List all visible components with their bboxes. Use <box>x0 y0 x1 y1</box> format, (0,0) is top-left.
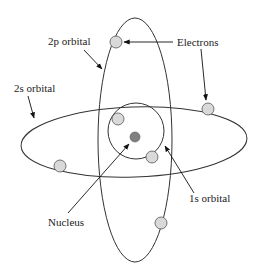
orbital-1s <box>108 103 164 159</box>
electron <box>146 151 158 163</box>
electron <box>110 36 122 48</box>
arrow-electrons-right <box>201 49 206 100</box>
arrow-2s <box>28 96 34 118</box>
electron <box>112 113 124 125</box>
atom-diagram <box>0 0 267 273</box>
electron <box>202 103 214 115</box>
label-electrons: Electrons <box>177 37 219 48</box>
electron <box>54 160 66 172</box>
label-nucleus: Nucleus <box>48 217 84 228</box>
label-2s-orbital: 2s orbital <box>14 83 55 94</box>
pointer-arrows <box>28 42 206 213</box>
electron <box>155 217 167 229</box>
label-2p-orbital: 2p orbital <box>48 36 90 47</box>
arrow-2p <box>84 50 102 69</box>
nucleus <box>130 132 140 142</box>
label-1s-orbital: 1s orbital <box>189 193 230 204</box>
